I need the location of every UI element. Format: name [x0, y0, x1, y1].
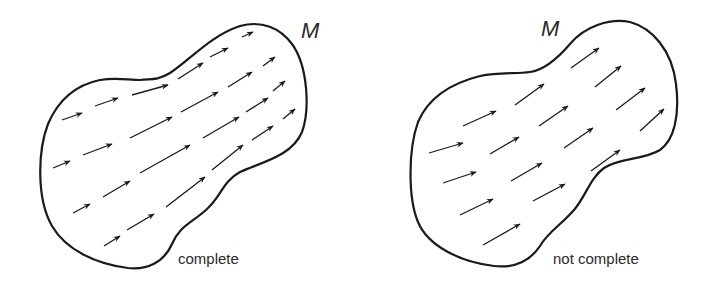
vector-arrow: [95, 98, 118, 106]
manifold-label-left: M: [301, 18, 319, 44]
vector-arrow: [203, 117, 239, 138]
vector-arrow: [533, 184, 565, 201]
vector-arrow: [443, 172, 476, 183]
vector-arrow: [640, 109, 664, 131]
vector-arrow: [252, 126, 273, 140]
vector-arrow: [490, 137, 519, 154]
manifold-label-right: M: [541, 16, 559, 42]
vector-arrow: [463, 111, 496, 126]
vector-arrow: [181, 92, 218, 112]
vector-arrow: [127, 214, 154, 230]
diagram-canvas: [0, 0, 707, 282]
manifold-outline-not-complete: [411, 21, 678, 266]
vector-arrow: [273, 81, 285, 91]
vector-arrow: [246, 98, 268, 112]
vector-arrow: [83, 144, 112, 155]
vector-arrow: [140, 145, 190, 173]
vector-arrow: [210, 48, 228, 57]
vector-arrow: [228, 72, 252, 87]
vector-arrow: [595, 66, 621, 87]
vector-field-not-complete: [429, 48, 664, 245]
vector-arrow: [73, 204, 90, 213]
vector-arrow: [539, 106, 568, 126]
vector-arrow: [283, 109, 295, 119]
vector-arrow: [53, 161, 70, 168]
vector-arrow: [483, 224, 520, 245]
vector-arrow: [515, 84, 544, 105]
vector-arrow: [429, 143, 463, 153]
caption-complete: complete: [178, 250, 239, 267]
vector-arrow: [104, 236, 120, 246]
vector-arrow: [263, 57, 275, 66]
vector-arrow: [166, 177, 205, 207]
vector-arrow: [103, 181, 130, 197]
vector-arrow: [571, 48, 599, 68]
vector-arrow: [242, 32, 253, 37]
caption-not-complete: not complete: [553, 250, 639, 267]
vector-arrow: [564, 128, 593, 148]
vector-arrow: [132, 85, 168, 95]
manifold-outline-complete: [40, 24, 306, 268]
vector-arrow: [212, 145, 243, 170]
vector-arrow: [460, 199, 493, 215]
vector-arrow: [130, 117, 172, 138]
vector-arrow: [511, 163, 542, 181]
vector-arrow: [616, 88, 645, 110]
vector-field-complete: [53, 32, 295, 246]
vector-arrow: [62, 113, 82, 120]
